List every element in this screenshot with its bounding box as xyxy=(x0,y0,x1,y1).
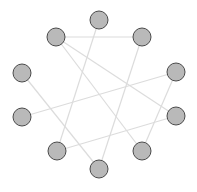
graph-node-n4 xyxy=(133,142,151,160)
graph-node-n2 xyxy=(167,63,185,81)
edge-layer xyxy=(22,20,176,169)
network-graph xyxy=(0,0,197,192)
graph-node-n0 xyxy=(90,11,108,29)
graph-node-n3 xyxy=(167,107,185,125)
graph-node-n7 xyxy=(13,108,31,126)
graph-node-n9 xyxy=(47,28,65,46)
graph-node-n5 xyxy=(90,160,108,178)
graph-node-n8 xyxy=(13,64,31,82)
edge-n9-n3 xyxy=(56,37,176,116)
edge-n7-n2 xyxy=(22,72,176,117)
graph-node-n1 xyxy=(133,28,151,46)
graph-node-n6 xyxy=(48,142,66,160)
edge-n6-n3 xyxy=(57,116,176,151)
